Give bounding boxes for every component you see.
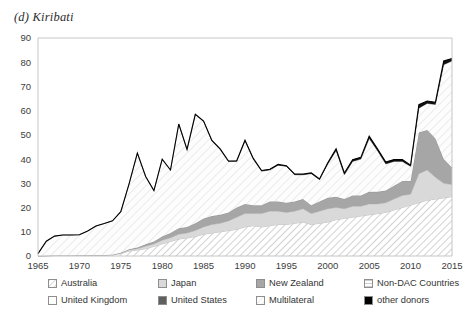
y-axis-tick: 30 bbox=[20, 178, 31, 189]
x-axis-tick: 1965 bbox=[27, 260, 48, 271]
legend-label: New Zealand bbox=[269, 278, 324, 289]
chart-figure: (d) Kiribati bbox=[0, 0, 463, 330]
x-axis-tick: 1970 bbox=[69, 260, 90, 271]
legend-label: United States bbox=[171, 295, 227, 306]
legend-label: other donors bbox=[377, 295, 429, 306]
legend-label: Japan bbox=[171, 278, 196, 289]
y-axis-tick: 90 bbox=[20, 32, 31, 43]
legend-item-non-dac[interactable]: Non-DAC Countries bbox=[364, 278, 463, 289]
legend-item-japan[interactable]: Japan bbox=[158, 278, 256, 289]
legend-label: United Kingdom bbox=[61, 295, 127, 306]
legend-item-multilateral[interactable]: Multilateral bbox=[256, 295, 364, 306]
y-axis-tick: 40 bbox=[20, 154, 31, 165]
legend-swatch-united-states-icon bbox=[158, 296, 167, 305]
legend-swatch-new-zealand-icon bbox=[256, 279, 265, 288]
y-axis-tick: 80 bbox=[20, 57, 31, 68]
chart-legend: AustraliaJapanNew ZealandNon-DAC Countri… bbox=[48, 275, 452, 309]
y-axis-tick: 10 bbox=[20, 226, 31, 237]
legend-label: Non-DAC Countries bbox=[377, 278, 459, 289]
legend-item-new-zealand[interactable]: New Zealand bbox=[256, 278, 364, 289]
x-axis-tick: 1990 bbox=[234, 260, 255, 271]
legend-swatch-australia-icon bbox=[48, 279, 57, 288]
y-axis-tick: 50 bbox=[20, 129, 31, 140]
legend-swatch-japan-icon bbox=[158, 279, 167, 288]
legend-item-united-states[interactable]: United States bbox=[158, 295, 256, 306]
y-axis-tick: 70 bbox=[20, 81, 31, 92]
x-axis-tick: 1985 bbox=[193, 260, 214, 271]
legend-swatch-united-kingdom-icon bbox=[48, 296, 57, 305]
x-axis-tick: 2015 bbox=[441, 260, 462, 271]
x-axis-tick: 1995 bbox=[276, 260, 297, 271]
y-axis-tick: 60 bbox=[20, 105, 31, 116]
x-axis-tick: 2010 bbox=[400, 260, 421, 271]
x-axis-tick: 1980 bbox=[152, 260, 173, 271]
legend-item-other-donors[interactable]: other donors bbox=[364, 295, 463, 306]
legend-item-australia[interactable]: Australia bbox=[48, 278, 158, 289]
stacked-area-series bbox=[38, 59, 452, 256]
legend-swatch-other-donors-icon bbox=[364, 296, 373, 305]
legend-swatch-non-dac-icon bbox=[364, 279, 373, 288]
x-axis-tick: 1975 bbox=[110, 260, 131, 271]
legend-swatch-multilateral-icon bbox=[256, 296, 265, 305]
x-axis-tick: 2005 bbox=[359, 260, 380, 271]
legend-item-united-kingdom[interactable]: United Kingdom bbox=[48, 295, 158, 306]
x-axis-tick: 2000 bbox=[317, 260, 338, 271]
y-axis-tick: 20 bbox=[20, 202, 31, 213]
legend-label: Australia bbox=[61, 278, 97, 289]
x-axis-tick-labels: 1965197019751980198519901995200020052010… bbox=[27, 260, 462, 271]
legend-label: Multilateral bbox=[269, 295, 314, 306]
y-axis-tick-labels: 0102030405060708090 bbox=[20, 32, 31, 261]
